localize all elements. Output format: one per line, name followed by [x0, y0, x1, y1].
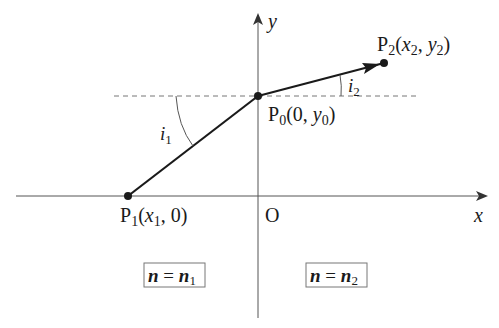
y-axis-label: y [266, 10, 277, 33]
point-label-p1: P1(x1, 0) [120, 204, 187, 229]
origin-label: O [265, 204, 279, 226]
refraction-diagram: i1 i2 y x O P0(0, y0) P1(x1, 0) P2(x2, y… [0, 0, 499, 328]
angle-label-i1: i1 [160, 123, 172, 147]
refracted-ray [258, 63, 384, 96]
point-p2 [380, 59, 388, 67]
point-p0 [254, 92, 262, 100]
point-label-p2: P2(x2, y2) [377, 33, 450, 58]
point-label-p0: P0(0, y0) [268, 103, 335, 128]
point-p1 [124, 192, 132, 200]
angle-arc-i1 [176, 96, 193, 146]
region-label-n1: n = n1 [148, 265, 196, 288]
region-label-n2: n = n2 [310, 265, 358, 288]
angle-arc-i2 [340, 75, 341, 96]
x-axis-label: x [473, 204, 483, 226]
angle-label-i2: i2 [348, 75, 360, 99]
